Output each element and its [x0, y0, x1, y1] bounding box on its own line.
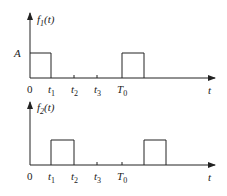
f2-pulse-1 [51, 140, 74, 165]
pulse-waveform-diagram: f1(t) A t 0 t1 t2 t3 T0 f2(t) t 0 t1 t2 … [0, 0, 227, 196]
f2-xlabel: t [208, 171, 212, 183]
panel-f1: f1(t) A t 0 t1 t2 t3 T0 [13, 13, 215, 98]
f2-tick-label-t3: t3 [94, 170, 101, 185]
f2-tick-label-t1: t1 [48, 170, 55, 185]
f1-xlabel: t [208, 84, 212, 96]
f1-tick-label-t1: t1 [48, 83, 55, 98]
f2-tick-label-T0: T0 [117, 170, 127, 185]
f1-amplitude-label: A [13, 47, 21, 59]
f2-tick-label-0: 0 [27, 170, 33, 182]
f1-pulse-2 [122, 53, 144, 78]
f2-pulse-2 [144, 140, 166, 165]
f1-tick-label-0: 0 [27, 83, 33, 95]
f1-tick-label-t2: t2 [71, 83, 78, 98]
f2-ylabel: f2(t) [37, 101, 55, 116]
f1-pulse-1 [30, 53, 51, 78]
panel-f2: f2(t) t 0 t1 t2 t3 T0 [27, 101, 215, 185]
f1-ylabel: f1(t) [37, 13, 55, 28]
f2-tick-label-t2: t2 [71, 170, 78, 185]
f1-tick-label-t3: t3 [94, 83, 101, 98]
f1-tick-label-T0: T0 [117, 83, 127, 98]
